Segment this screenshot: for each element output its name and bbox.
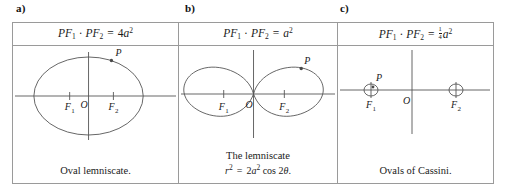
panel-b-caption-trig: cos <box>263 165 276 176</box>
panel-a-label-O: O <box>81 99 88 110</box>
panel-c-label-O: O <box>403 95 410 106</box>
panel-b-lhs1: PF <box>223 27 237 39</box>
panel-c-rhs-fraction: 14 <box>439 26 442 40</box>
panel-c-rhs-frac-den: 4 <box>439 33 442 41</box>
panel-c-formula-cell: PF1·PF2=14a2 <box>338 23 493 46</box>
panel-c-formula: PF1·PF2=14a2 <box>379 26 453 41</box>
panel-a-caption: Oval lemniscate. <box>13 164 178 177</box>
panel-a-label-F2-sub: 2 <box>115 107 119 115</box>
figure-table: PF1·PF2=4a2 P F <box>12 22 494 184</box>
panel-c-caption: Ovals of Cassini. <box>338 164 493 177</box>
panel-a-caption-line1: Oval lemniscate. <box>13 164 178 177</box>
panel-c-operator: · <box>396 28 406 40</box>
panel-a-label-F1-sub: 1 <box>71 107 75 115</box>
panel-a-label-P: P <box>114 47 121 58</box>
panel-b-point-P-marker <box>300 67 303 70</box>
panel-b-formula-cell: PF1·PF2=a2 <box>179 23 337 46</box>
panel-a-lhs2: PF <box>86 27 100 39</box>
panel-letter-b: b) <box>185 2 195 14</box>
panel-a-lhs1: PF <box>58 27 72 39</box>
panel-a-formula: PF1·PF2=4a2 <box>58 27 133 41</box>
panel-b-caption-line1: The lemniscate <box>179 149 337 162</box>
figure-sheet: a) b) c) PF1·PF2=4a2 <box>0 0 507 193</box>
panel-c-rhs-exp: 2 <box>449 27 453 36</box>
panel-letter-a: a) <box>16 2 26 14</box>
panel-b-caption-line2: r2=2a2 cos 2θ. <box>179 163 337 178</box>
panel-b-lhs2: PF <box>251 27 265 39</box>
panel-b-figure-cell: P F 1 F 2 O The lemniscate r2=2a2 cos 2θ… <box>179 46 337 183</box>
panel-b-label-F1-sub: 1 <box>225 107 229 115</box>
panel-b-label-F2-sub: 2 <box>286 107 290 115</box>
panel-b-caption-equals: = <box>233 165 247 176</box>
panel-b-caption-period: . <box>288 165 291 176</box>
panel-a-point-P-marker <box>110 59 113 62</box>
panel-c-label-F2-sub: 2 <box>458 105 462 113</box>
panel-a-diagram: P F 1 F 2 O <box>13 46 178 142</box>
panel-a-operator: · <box>76 27 86 39</box>
panel-b-label-P: P <box>303 55 310 66</box>
panel-letter-row: a) b) c) <box>0 0 507 22</box>
panel-c-figure-cell: P F 1 F 2 O Ovals of Cassini. <box>338 46 493 183</box>
panel-b-caption: The lemniscate r2=2a2 cos 2θ. <box>179 149 337 177</box>
panel-c-label-F1-sub: 1 <box>373 105 377 113</box>
panel-c-label-P: P <box>375 72 382 83</box>
panel-b-label-O: O <box>246 99 253 110</box>
panel-c-equals: = <box>424 28 439 40</box>
panel-c-point-P-marker <box>372 86 375 89</box>
panel-b-rhs-exp: 2 <box>289 26 293 35</box>
panel-a-formula-cell: PF1·PF2=4a2 <box>13 23 178 46</box>
panel-c-diagram: P F 1 F 2 O <box>338 46 493 142</box>
panel-a-rhs-exp: 2 <box>129 26 133 35</box>
panel-b-diagram: P F 1 F 2 O <box>179 46 337 142</box>
panel-c-lhs2: PF <box>406 28 420 40</box>
panel-c-lhs1: PF <box>379 28 393 40</box>
panel-b-caption-var-exp: 2 <box>256 163 260 172</box>
panel-a: PF1·PF2=4a2 P F <box>13 23 179 183</box>
panel-b: PF1·PF2=a2 P <box>179 23 338 183</box>
panel-c-caption-line1: Ovals of Cassini. <box>338 164 493 177</box>
panel-c-rhs-frac-num: 1 <box>439 26 442 33</box>
panel-c-svg: P F 1 F 2 O <box>338 46 493 142</box>
panel-b-formula: PF1·PF2=a2 <box>223 27 292 41</box>
panel-b-operator: · <box>241 27 251 39</box>
panel-a-svg: P F 1 F 2 O <box>13 46 178 142</box>
panel-letter-c: c) <box>340 2 349 14</box>
panel-a-figure-cell: P F 1 F 2 O Oval lemniscate. <box>13 46 178 183</box>
panel-b-equals: = <box>269 27 284 39</box>
panel-b-svg: P F 1 F 2 O <box>179 46 337 142</box>
panel-c: PF1·PF2=14a2 P <box>338 23 493 183</box>
panel-a-equals: = <box>103 27 118 39</box>
